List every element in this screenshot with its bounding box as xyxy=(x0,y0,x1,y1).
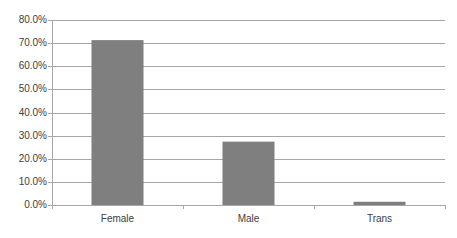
y-tick-label: 10.0% xyxy=(19,176,47,187)
bar-trans xyxy=(354,202,406,205)
bar-male xyxy=(223,142,275,205)
y-tick-label: 0.0% xyxy=(24,199,47,210)
y-tick-label: 40.0% xyxy=(19,107,47,118)
bar-chart: 0.0%10.0%20.0%30.0%40.0%50.0%60.0%70.0%8… xyxy=(0,0,457,238)
x-tick-label: Trans xyxy=(320,213,440,224)
y-tick-label: 50.0% xyxy=(19,83,47,94)
plot-area xyxy=(0,0,457,238)
y-tick-label: 20.0% xyxy=(19,153,47,164)
y-tick-label: 30.0% xyxy=(19,130,47,141)
bar-female xyxy=(92,40,144,205)
y-tick-label: 60.0% xyxy=(19,60,47,71)
y-tick-label: 80.0% xyxy=(19,14,47,25)
x-tick-label: Male xyxy=(189,213,309,224)
y-tick-label: 70.0% xyxy=(19,37,47,48)
x-tick-label: Female xyxy=(58,213,178,224)
